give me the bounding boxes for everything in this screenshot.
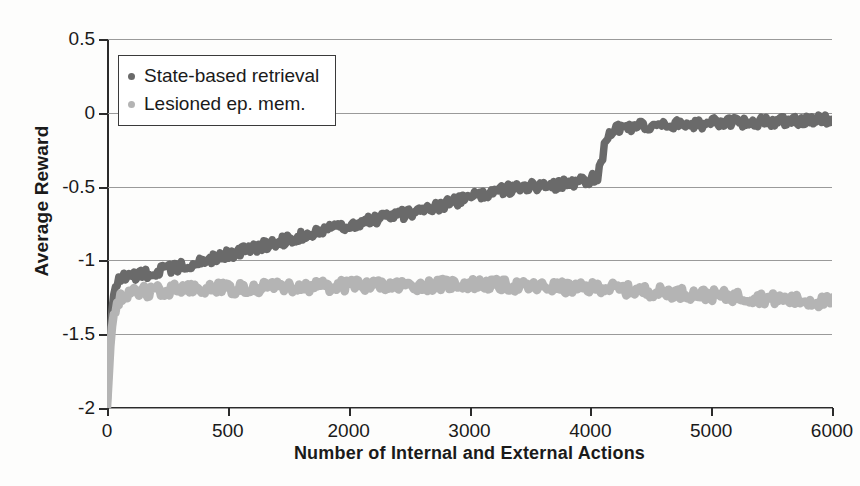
x-tick-label: 2000 bbox=[328, 420, 370, 442]
x-tick-mark bbox=[711, 408, 713, 416]
y-tick-label: -1 bbox=[78, 249, 95, 271]
y-tick-label: 0.5 bbox=[69, 28, 95, 50]
legend-marker-icon bbox=[128, 101, 135, 108]
chart-figure: Average Reward Number of Internal and Ex… bbox=[0, 0, 860, 486]
y-tick-label: -0.5 bbox=[62, 176, 95, 198]
x-tick-mark bbox=[107, 408, 109, 416]
series-line-2 bbox=[107, 279, 832, 408]
legend-label: Lesioned ep. mem. bbox=[144, 93, 306, 115]
x-tick-mark bbox=[349, 408, 351, 416]
y-tick-label: -2 bbox=[78, 397, 95, 419]
x-tick-mark bbox=[590, 408, 592, 416]
plot-area: 0.50-0.5-1-1.5-2 05002000300040005000600… bbox=[107, 39, 832, 408]
legend-label: State-based retrieval bbox=[144, 65, 319, 87]
series-line-1 bbox=[107, 115, 832, 408]
x-tick-label: 6000 bbox=[811, 420, 853, 442]
x-tick-mark bbox=[228, 408, 230, 416]
y-axis-title: Average Reward bbox=[31, 71, 53, 331]
x-tick-mark bbox=[470, 408, 472, 416]
x-tick-label: 3000 bbox=[448, 420, 490, 442]
x-tick-label: 0 bbox=[102, 420, 113, 442]
x-tick-label: 500 bbox=[212, 420, 244, 442]
x-tick-mark bbox=[832, 408, 834, 416]
chart-legend: State-based retrievalLesioned ep. mem. bbox=[118, 55, 336, 126]
x-tick-label: 5000 bbox=[690, 420, 732, 442]
x-tick-label: 4000 bbox=[569, 420, 611, 442]
y-tick-label: 0 bbox=[84, 102, 95, 124]
legend-entry-1: State-based retrieval bbox=[128, 62, 319, 90]
legend-marker-icon bbox=[128, 73, 135, 80]
y-tick-label: -1.5 bbox=[62, 323, 95, 345]
legend-entry-2: Lesioned ep. mem. bbox=[128, 90, 319, 118]
x-axis-title: Number of Internal and External Actions bbox=[107, 443, 832, 464]
